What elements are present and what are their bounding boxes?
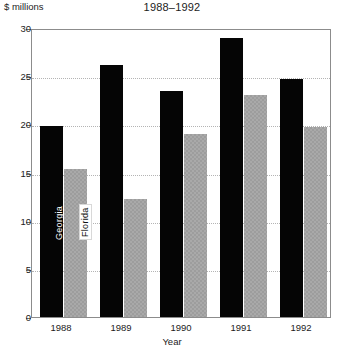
x-axis-tick-label: 1990	[151, 322, 211, 333]
bar-florida-1989	[124, 199, 147, 317]
y-axis-tick-label: 15	[9, 169, 31, 179]
bar-georgia-1989	[100, 65, 123, 317]
bar-florida-1992	[304, 127, 327, 317]
bar-florida-1991	[244, 95, 267, 317]
x-axis-tick-label: 1992	[271, 322, 331, 333]
x-axis-tick-label: 1991	[211, 322, 271, 333]
bar-georgia-1990	[160, 91, 183, 317]
y-axis-tick-label: 0	[9, 313, 31, 323]
y-axis-tick-label: 5	[9, 265, 31, 275]
y-axis-tick-label: 20	[9, 120, 31, 130]
x-axis-tick-label: 1988	[31, 322, 91, 333]
bar-georgia-1991	[220, 38, 243, 317]
bar-georgia-1992	[280, 79, 303, 317]
bar-chart: $ millions 1988–1992 051015202530 Georgi…	[0, 0, 344, 351]
x-axis-caption: Year	[0, 336, 344, 347]
bar-florida-1990	[184, 134, 207, 317]
chart-title: 1988–1992	[0, 1, 344, 13]
y-axis-tick-label: 30	[9, 24, 31, 34]
y-axis-tick-label: 10	[9, 217, 31, 227]
y-axis-tick-label: 25	[9, 72, 31, 82]
x-axis-tick-label: 1989	[91, 322, 151, 333]
plot-area: GeorgiaFlorida	[31, 29, 331, 318]
series-label-georgia: Georgia	[55, 206, 64, 240]
bar-florida-1988	[64, 169, 87, 317]
series-label-florida: Florida	[79, 204, 92, 240]
